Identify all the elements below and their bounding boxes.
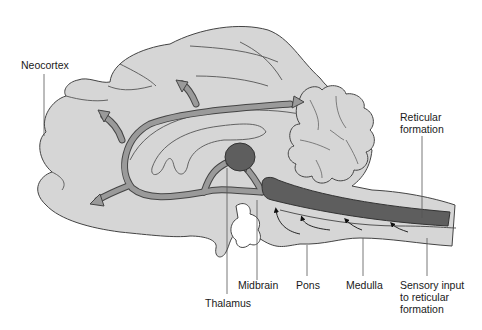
label-sensory-input-line3: formation [400,303,444,315]
label-medulla: Medulla [346,279,383,291]
label-midbrain: Midbrain [238,279,278,291]
label-sensory-input-line1: Sensory input [400,279,464,291]
label-thalamus: Thalamus [205,297,251,309]
label-reticular-formation-line1: Reticular [400,111,441,123]
label-neocortex: Neocortex [21,59,69,71]
thalamus-shape [225,143,255,171]
label-pons: Pons [296,279,320,291]
label-sensory-input-line2: to reticular [400,291,449,303]
label-reticular-formation-line2: formation [400,123,444,135]
